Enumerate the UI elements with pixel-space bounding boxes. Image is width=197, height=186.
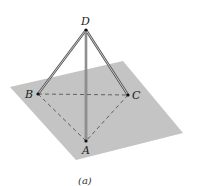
label-c: C xyxy=(132,89,141,102)
point-b xyxy=(36,92,39,95)
ground-plane xyxy=(10,61,183,160)
tetrahedron-diagram: D B C A (a) xyxy=(0,0,197,186)
figure-caption: (a) xyxy=(78,175,92,186)
label-d: D xyxy=(80,15,90,28)
point-d xyxy=(84,28,87,31)
label-b: B xyxy=(24,88,33,101)
point-a xyxy=(84,139,87,142)
point-c xyxy=(126,93,129,96)
label-a: A xyxy=(81,144,90,157)
